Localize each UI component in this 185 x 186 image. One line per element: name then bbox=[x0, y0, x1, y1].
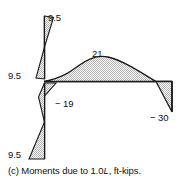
figure-caption: (c) Moments due to 1.0L, ft-kips. bbox=[8, 166, 141, 176]
label-lower-column-base-moment: 9.5 bbox=[8, 150, 21, 160]
caption-suffix: , ft-kips. bbox=[109, 165, 141, 176]
beam-right-negative-moment-area bbox=[156, 82, 172, 113]
label-beam-right-joint-moment: − 30 bbox=[150, 113, 168, 123]
moment-diagram-figure: 9.5 9.5 21 − 19 − 30 9.5 (c) Moments due… bbox=[0, 0, 185, 186]
label-upper-column-joint-moment: 9.5 bbox=[8, 71, 21, 81]
beam-left-negative-moment-area bbox=[45, 83, 57, 96]
lower-column-moment-wedge-lower bbox=[29, 122, 45, 159]
caption-prefix: (c) bbox=[8, 165, 19, 176]
label-beam-midspan-moment: 21 bbox=[92, 49, 102, 59]
label-upper-column-top-moment: 9.5 bbox=[48, 13, 61, 23]
caption-text: Moments due to 1.0 bbox=[21, 165, 103, 176]
lower-column-moment-wedge-upper bbox=[39, 83, 45, 122]
beam-positive-moment-area bbox=[44, 56, 156, 81]
moment-diagram-canvas bbox=[0, 0, 185, 186]
label-beam-left-joint-moment: − 19 bbox=[55, 99, 73, 109]
upper-column-moment-wedge-bottom bbox=[36, 47, 45, 79]
